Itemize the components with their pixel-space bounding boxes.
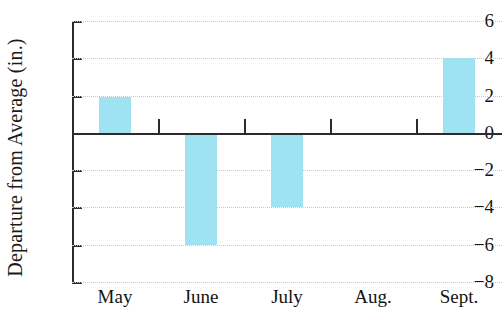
x-axis-tick-label: Sept. <box>440 286 479 308</box>
gridline <box>72 21 502 22</box>
y-axis-title: Departure from Average (in.) <box>0 0 30 315</box>
bar <box>443 58 475 133</box>
gridline <box>72 282 502 283</box>
gridline <box>72 58 502 59</box>
bar-chart: Departure from Average (in.) 6420−2−4−6−… <box>0 0 502 315</box>
x-axis-tick-label: July <box>271 286 303 308</box>
x-axis-tick <box>416 119 418 133</box>
x-axis-tick <box>330 119 332 133</box>
gridline <box>72 245 502 246</box>
x-axis-tick-label: June <box>184 286 219 308</box>
x-axis-tick <box>158 119 160 133</box>
zero-baseline <box>72 133 502 135</box>
bar <box>185 133 217 245</box>
x-axis-tick-label: May <box>98 286 133 308</box>
gridline <box>72 96 502 97</box>
x-axis-tick-label: Aug. <box>354 286 391 308</box>
bar <box>99 97 131 132</box>
gridline <box>72 207 502 208</box>
plot-area <box>72 21 502 282</box>
x-axis-tick <box>244 119 246 133</box>
bar <box>271 133 303 208</box>
